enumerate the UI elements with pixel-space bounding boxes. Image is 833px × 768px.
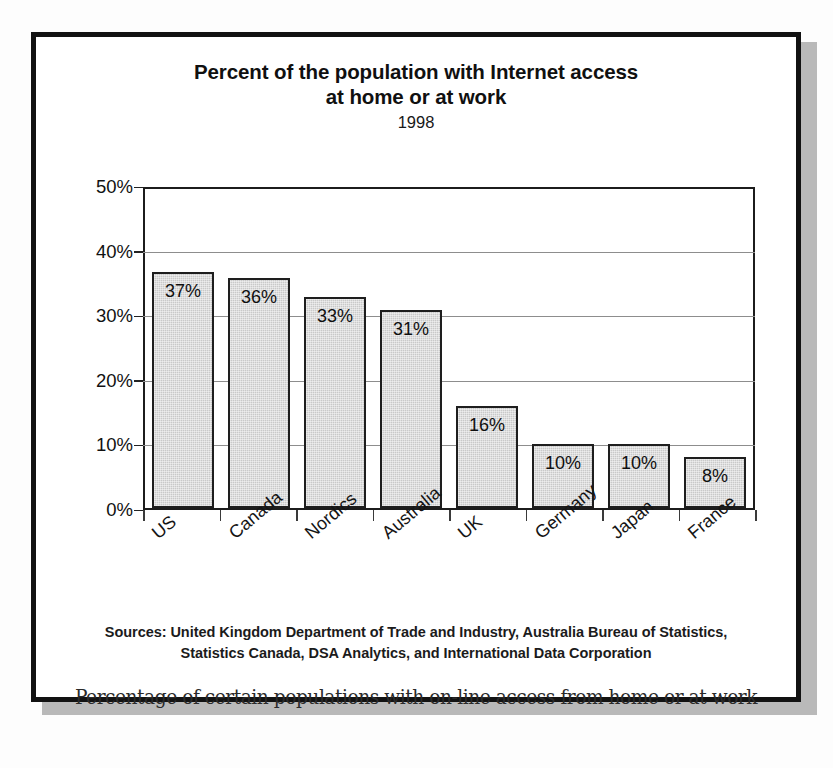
- slide-frame: Percent of the population with Internet …: [31, 32, 801, 702]
- bar-canada[interactable]: 36%: [228, 278, 290, 508]
- bar-value-label: 33%: [306, 306, 364, 326]
- x-axis-tick-mark: [755, 510, 757, 521]
- bar-slot: 10%: [601, 189, 677, 508]
- bar-slot: 33%: [297, 189, 373, 508]
- y-axis-tick-label: 0%: [63, 499, 133, 521]
- chart-title-line-2: at home or at work: [36, 84, 796, 109]
- bar-value-label: 10%: [610, 453, 668, 473]
- bar-nordics[interactable]: 33%: [304, 297, 366, 508]
- bar-japan[interactable]: 10%: [608, 444, 670, 508]
- y-axis-tick-label: 50%: [63, 176, 133, 198]
- bar-slot: 10%: [525, 189, 601, 508]
- y-axis-tick-mark: [134, 316, 143, 318]
- x-axis-labels: USCanadaNordicsAustraliaUKGermanyJapanFr…: [143, 521, 755, 591]
- bar-australia[interactable]: 31%: [380, 310, 442, 508]
- bar-slot: 36%: [221, 189, 297, 508]
- y-axis-tick-mark: [134, 187, 143, 189]
- x-axis-tick-mark: [526, 510, 528, 521]
- bar-value-label: 31%: [382, 319, 440, 339]
- bar-slot: 31%: [373, 189, 449, 508]
- x-label-slot: Canada: [220, 521, 296, 591]
- x-label-slot: France: [679, 521, 755, 591]
- bar-slot: 8%: [677, 189, 753, 508]
- x-label-slot: US: [143, 521, 219, 591]
- bar-slot: 16%: [449, 189, 525, 508]
- x-axis-tick-mark: [373, 510, 375, 521]
- bar-uk[interactable]: 16%: [456, 406, 518, 508]
- y-axis-tick-label: 10%: [63, 434, 133, 456]
- bar-value-label: 8%: [686, 466, 744, 486]
- sources-note: Sources: United Kingdom Department of Tr…: [36, 622, 796, 664]
- bar-chart: 0%10%20%30%40%50% 37%36%33%31%16%10%10%8…: [143, 187, 755, 510]
- bar-value-label: 10%: [534, 453, 592, 473]
- y-axis-tick-mark: [134, 380, 143, 382]
- x-label-slot: Germany: [526, 521, 602, 591]
- chart-title-line-1: Percent of the population with Internet …: [36, 59, 796, 84]
- x-axis-tick-mark: [449, 510, 451, 521]
- y-axis-tick-label: 20%: [63, 370, 133, 392]
- x-label-slot: Australia: [373, 521, 449, 591]
- x-axis-tick-mark: [679, 510, 681, 521]
- x-axis-tick-mark: [296, 510, 298, 521]
- x-axis-tick-mark: [220, 510, 222, 521]
- chart-title-block: Percent of the population with Internet …: [36, 59, 796, 132]
- y-axis-tick-label: 30%: [63, 305, 133, 327]
- x-label-slot: Nordics: [296, 521, 372, 591]
- bar-us[interactable]: 37%: [152, 272, 214, 508]
- y-axis-tick-label: 40%: [63, 241, 133, 263]
- slide-caption: Percentage of certain populations with o…: [63, 685, 770, 709]
- x-axis-tick-mark: [602, 510, 604, 521]
- sources-line-2: Statistics Canada, DSA Analytics, and In…: [36, 643, 796, 664]
- y-axis-tick-mark: [134, 510, 143, 512]
- sources-line-1: Sources: United Kingdom Department of Tr…: [36, 622, 796, 643]
- x-label-slot: Japan: [602, 521, 678, 591]
- bar-value-label: 36%: [230, 287, 288, 307]
- bar-value-label: 16%: [458, 415, 516, 435]
- bars-container: 37%36%33%31%16%10%10%8%: [145, 189, 753, 508]
- chart-subtitle-year: 1998: [36, 112, 796, 132]
- x-axis-tick-mark: [143, 510, 145, 521]
- bar-slot: 37%: [145, 189, 221, 508]
- x-label-slot: UK: [449, 521, 525, 591]
- bar-value-label: 37%: [154, 281, 212, 301]
- y-axis-tick-mark: [134, 445, 143, 447]
- y-axis-tick-mark: [134, 251, 143, 253]
